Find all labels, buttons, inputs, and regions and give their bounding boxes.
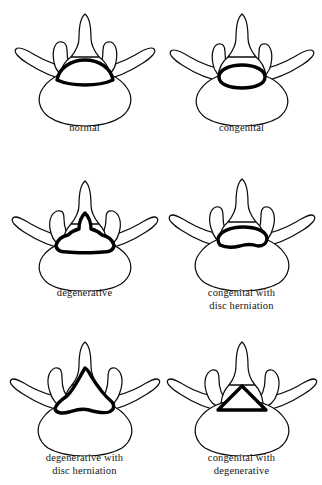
vertebra-diagram-degenerative — [9, 173, 161, 291]
panel-normal: normal — [4, 8, 165, 135]
spinal-canal-congenital-disc — [218, 227, 267, 247]
spinous-process — [228, 179, 256, 222]
spinous-process — [71, 14, 99, 57]
spinous-process — [229, 342, 255, 385]
vertebra-diagram-normal — [9, 8, 161, 126]
panel-caption: degenerative — [57, 287, 112, 300]
vertebra-diagram-congenital-disc — [166, 173, 318, 291]
panel-degenerative-disc-herniation: degenerative with disc herniation — [4, 338, 165, 477]
vertebra-diagram-degenerative-disc — [9, 338, 161, 456]
panel-caption: congenital — [219, 122, 264, 135]
spinal-canal-congenital — [219, 65, 265, 88]
stenosis-figure: normal congenital — [0, 0, 322, 485]
spinous-process — [228, 14, 256, 57]
panel-caption: normal — [69, 122, 100, 135]
panel-congenital: congenital — [161, 8, 322, 135]
panel-caption: congenital with disc herniation — [208, 287, 275, 312]
panel-caption: degenerative with disc herniation — [46, 452, 123, 477]
panel-degenerative: degenerative — [4, 173, 165, 300]
panel-congenital-disc-herniation: congenital with disc herniation — [161, 173, 322, 312]
vertebra-diagram-congenital — [166, 8, 318, 126]
panel-caption: congenital with degenerative — [208, 452, 275, 477]
vertebra-diagram-congenital-degenerative — [166, 338, 318, 456]
panel-congenital-degenerative: congenital with degenerative — [161, 338, 322, 477]
